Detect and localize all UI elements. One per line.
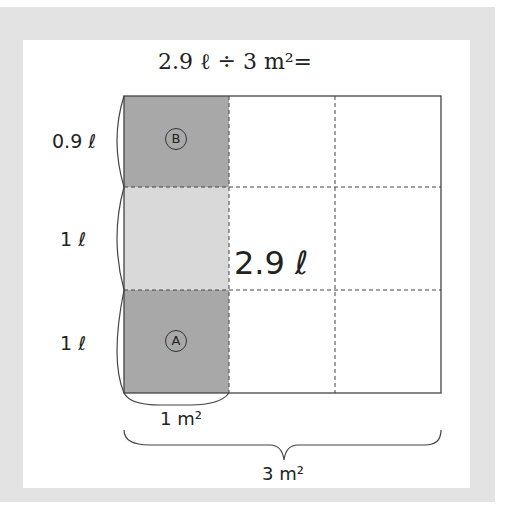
width-label-one: 1 m²: [160, 408, 202, 429]
width-label-three: 3 m²: [262, 463, 304, 484]
row-label-bottom: 1 ℓ: [60, 332, 86, 354]
marker-a: A: [165, 330, 187, 352]
marker-b: B: [165, 128, 187, 150]
total-label: 2.9 ℓ: [234, 244, 308, 282]
row-label-top: 0.9 ℓ: [52, 130, 96, 152]
row-label-middle: 1 ℓ: [60, 228, 86, 250]
equation-title: 2.9 ℓ ÷ 3 m²=: [0, 49, 470, 75]
